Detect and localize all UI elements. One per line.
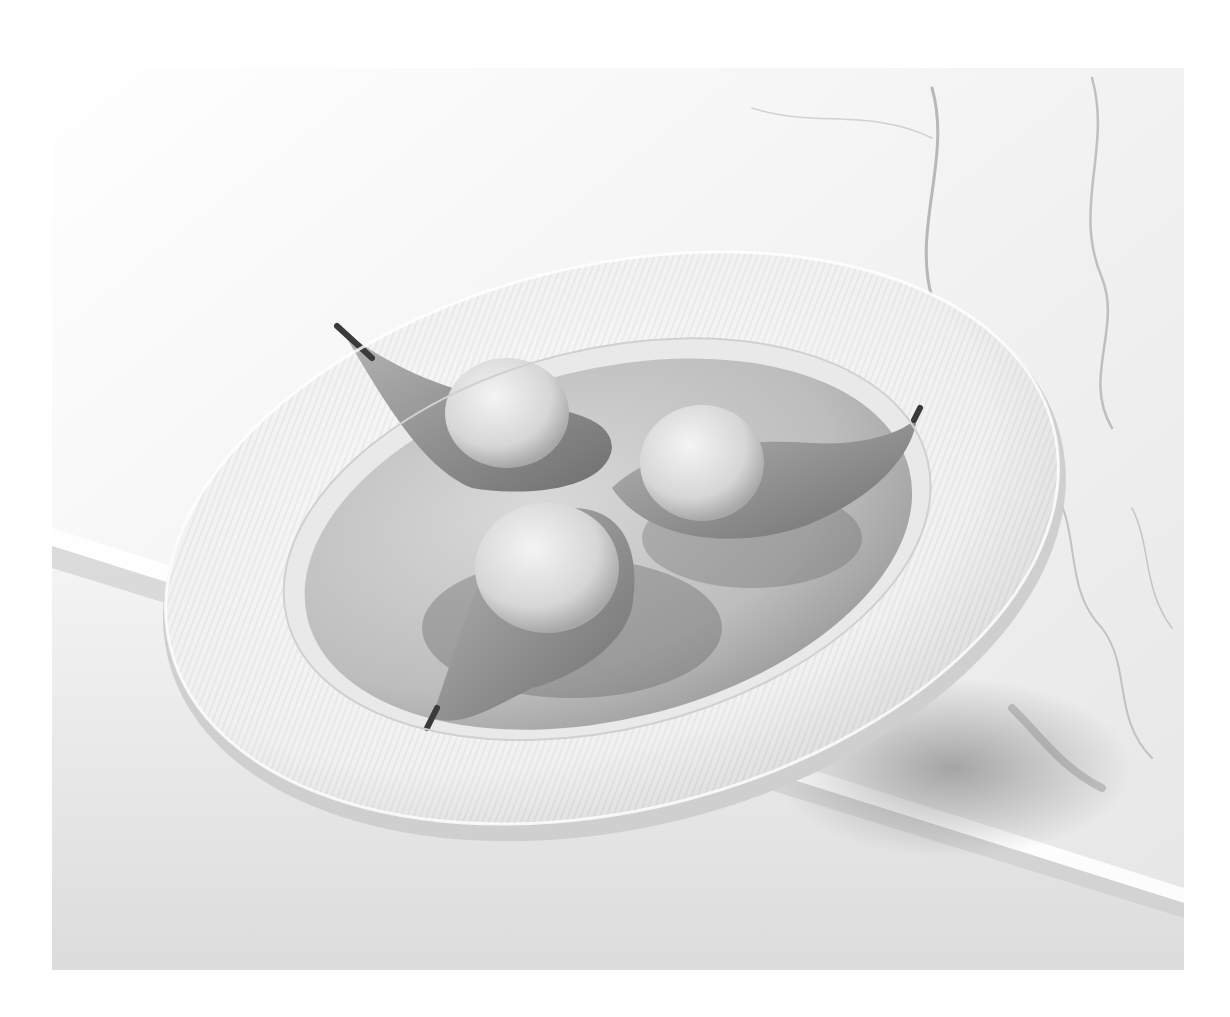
photo-illustration	[52, 68, 1184, 970]
ice-cream-scoop-right	[640, 405, 764, 521]
ice-cream-scoop-left	[445, 358, 569, 468]
ice-cream-scoop-front	[475, 503, 619, 633]
food-photo	[52, 68, 1184, 970]
